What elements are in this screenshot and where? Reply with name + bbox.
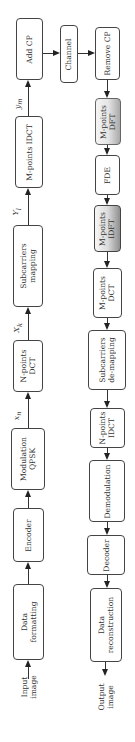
block-label: Encoder [24,519,33,551]
line: FDE [103,167,112,184]
arrow-down-icon [104,323,110,330]
output-label-line1: Output [97,681,106,713]
connector [107,390,108,401]
arrow-down-icon [104,528,110,535]
arrow-down-icon [104,261,110,268]
block-label: Subcarriersde-mapping [98,337,116,383]
block-label: Remove CP [103,31,112,75]
block-label: M-pointsDFT [99,104,117,138]
block-data-reconstruction: Datareconstruction [90,588,122,662]
line: Add CP [25,35,34,64]
arrow-down-icon [104,91,110,98]
block-label: FDE [103,167,112,184]
arrow-up-icon [25,562,31,569]
line: QPSK [28,437,37,481]
connector [28,568,29,584]
connector [28,313,29,340]
sig-sub: k [16,323,24,327]
block-label: N-pointsDCT [19,350,37,383]
block-remove-cp: Remove CP [95,27,120,80]
line: Data [97,597,106,654]
line: Channel [65,38,74,70]
line: M-points IDCT [25,124,34,180]
line: Demodulation [103,464,112,518]
output-label-line2: image [106,681,115,713]
block-label: M-pointsIDFT [99,211,117,245]
block-demodulation: Demodulation [89,460,125,522]
sig-sub: m [16,98,24,104]
line: M-points [99,104,108,138]
block-label: Subcarriersmapping [19,243,37,288]
line: IDFT [108,211,117,245]
line: Decoder [102,539,111,571]
line: Subcarriers [19,243,28,288]
line: DCT [28,350,37,383]
connector [28,194,29,225]
block-channel: Channel [60,25,78,83]
signal-label-ym: ym [13,98,25,109]
signal-label-Yl: Yl [11,208,23,215]
block-m-points-dft: M-pointsDFT [95,98,121,145]
block-m-points-dct: M-pointsDCT [93,268,122,318]
block-label: Add CP [25,35,34,64]
arrow-up-icon [25,80,31,87]
connector [28,86,29,116]
block-fde: FDE [95,155,120,195]
line: Remove CP [103,31,112,75]
arrow-up-icon [25,660,31,667]
block-add-cp: Add CP [16,18,43,80]
line: formatting [29,601,38,642]
line: Modulation [19,437,28,481]
line: reconstruction [106,597,115,654]
connector [28,398,29,428]
line: N-points [98,412,107,445]
line: N-points [19,350,28,383]
line: Data [20,601,29,642]
arrow-up-icon [25,307,31,314]
block-label: Dataformatting [20,601,38,642]
block-data-formatting: Dataformatting [13,584,44,660]
arrow-up-icon [25,490,31,497]
sig-base: X [12,327,21,333]
arrow-down-icon [102,669,108,676]
connector [107,252,108,261]
arrow-right-icon [53,50,60,56]
arrow-up-icon [25,188,31,195]
signal-label-xn: xn [12,411,24,420]
block-n-points-dct: N-pointsDCT [13,340,43,392]
line: Encoder [24,519,33,551]
block-label: M-pointsDCT [99,276,117,310]
line: mapping [28,243,37,288]
block-modulation-qpsk: ModulationQPSK [11,428,45,490]
block-m-points-idct: M-points IDCT [15,116,43,188]
block-label: N-pointsIDCT [98,412,116,445]
output-image-label: Output image [97,681,115,713]
block-subcarriers-mapping: Subcarriersmapping [13,225,43,307]
arrow-down-icon [104,581,110,588]
input-label-line2: image [29,672,38,702]
block-encoder: Encoder [13,508,44,562]
arrow-down-icon [104,198,110,205]
arrow-right-icon [88,50,95,56]
block-label: Decoder [102,539,111,571]
block-label: Channel [65,38,74,70]
block-label: M-points IDCT [25,124,34,180]
sig-base: y [13,105,22,110]
block-m-points-idft: M-pointsIDFT [94,205,121,252]
sig-base: x [12,416,21,421]
line: de-mapping [107,337,116,383]
arrow-up-icon [25,392,31,399]
sig-sub: n [15,411,23,415]
block-subcarriers-demapping: Subcarriersde-mapping [88,330,126,390]
arrow-down-icon [104,148,110,155]
block-n-points-idct: N-pointsIDCT [90,408,125,448]
block-label: Datareconstruction [97,597,115,654]
line: IDCT [107,412,116,445]
connector [28,496,29,508]
block-label: ModulationQPSK [19,437,37,481]
line: Subcarriers [98,337,107,383]
signal-label-Xk: Xk [12,323,24,333]
block-decoder: Decoder [87,535,125,575]
arrow-down-icon [104,401,110,408]
sig-base: Y [11,210,20,215]
